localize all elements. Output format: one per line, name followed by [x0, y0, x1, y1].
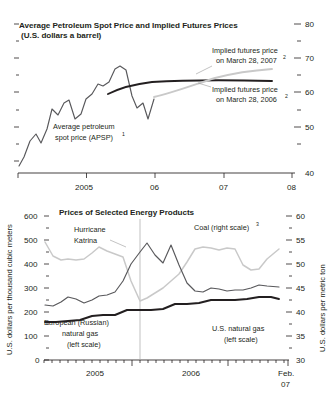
top-ytick-40: 40	[305, 169, 315, 178]
top-ytick-80: 80	[305, 20, 315, 29]
bottom-chart: Prices of Selected Energy Products U.S. …	[5, 208, 327, 389]
bottom-ytick-left-600: 600	[24, 212, 38, 221]
bottom-xtick-2005: 2005	[86, 369, 105, 378]
annotation-implied-futures-2006: Implied futures price on March 28, 2006 …	[198, 83, 288, 104]
annotation-european-natural-gas: European (Russian) natural gas (left sca…	[44, 318, 109, 349]
bottom-ytick-right-60: 60	[296, 212, 306, 221]
series-apsp	[19, 66, 154, 166]
bottom-ytick-right-30: 30	[296, 356, 306, 365]
bottom-ytick-right-40: 40	[296, 308, 306, 317]
top-chart: Average Petroleum Spot Price and Implied…	[14, 20, 315, 192]
top-chart-subtitle: (U.S. dollars a barrel)	[21, 31, 102, 40]
figure-svg: Average Petroleum Spot Price and Implied…	[0, 0, 331, 396]
top-ytick-60: 60	[305, 88, 315, 97]
bottom-ytick-left-400: 400	[24, 260, 38, 269]
anno-coal-footnote: 3	[256, 221, 259, 227]
bottom-ytick-left-0: 0	[35, 356, 40, 365]
bottom-ytick-left-300: 300	[24, 284, 38, 293]
bottom-xtick-07: 07	[281, 380, 291, 389]
anno-usgas-line2: (left scale)	[224, 335, 258, 344]
anno-futures07-line2: on March 28, 2007	[216, 56, 277, 65]
top-chart-title: Average Petroleum Spot Price and Implied…	[19, 21, 238, 30]
bottom-ytick-right-45: 45	[296, 284, 306, 293]
anno-futures06-line2: on March 28, 2006	[216, 95, 277, 104]
bottom-chart-title: Prices of Selected Energy Products	[59, 208, 195, 217]
bottom-x-major-ticks	[132, 360, 288, 366]
bottom-ytick-right-55: 55	[296, 236, 306, 245]
top-xtick-08: 08	[287, 183, 297, 192]
bottom-right-ticks	[286, 216, 292, 348]
top-right-ticks	[294, 24, 301, 144]
energy-prices-figure: Average Petroleum Spot Price and Implied…	[0, 0, 331, 396]
anno-european-line3: (left scale)	[67, 340, 101, 349]
top-left-minor-ticks	[14, 24, 19, 161]
bottom-xtick-feb: Feb.	[278, 369, 294, 378]
bottom-ytick-left-200: 200	[24, 308, 38, 317]
anno-futures07-line1: Implied futures price	[212, 46, 278, 55]
bottom-x-minor-ticks	[44, 360, 284, 363]
anno-european-line2: natural gas	[62, 329, 98, 338]
annotation-coal: Coal (right scale) 3	[194, 221, 259, 232]
bottom-right-axis-name: U.S. dollars per metric ton	[318, 264, 327, 352]
top-xtick-07: 07	[219, 183, 229, 192]
bottom-ytick-left-500: 500	[24, 236, 38, 245]
anno-futures07-footnote: 2	[283, 54, 286, 60]
annotation-apsp: Average petroleum spot price (APSP) 1	[53, 122, 125, 142]
anno-futures06-footnote: 2	[285, 93, 288, 99]
bottom-left-axis-name: U.S. dollars per thousand cubic meters	[5, 224, 14, 355]
bottom-xtick-2006: 2006	[182, 369, 201, 378]
bottom-left-ticks	[44, 216, 49, 360]
bottom-ytick-right-50: 50	[296, 260, 306, 269]
top-xtick-06: 06	[150, 183, 160, 192]
top-ytick-50: 50	[305, 123, 315, 132]
anno-apsp-line1: Average petroleum	[53, 122, 115, 131]
series-european-natural-gas	[45, 243, 279, 306]
anno-usgas-line1: U.S. natural gas	[212, 324, 265, 333]
top-xtick-2005: 2005	[75, 183, 94, 192]
bottom-ytick-right-35: 35	[296, 332, 306, 341]
top-x-ticks	[18, 173, 292, 178]
series-coal	[45, 242, 279, 301]
top-ytick-70: 70	[305, 54, 315, 63]
bottom-ytick-left-100: 100	[24, 332, 38, 341]
annotation-hurricane-katrina: Hurricane Katrina	[74, 225, 126, 247]
anno-apsp-line2: spot price (APSP)	[55, 133, 113, 142]
annotation-us-natural-gas: U.S. natural gas (left scale)	[212, 324, 265, 344]
anno-european-line1: European (Russian)	[44, 318, 109, 327]
anno-coal-label: Coal (right scale)	[194, 223, 249, 232]
anno-futures06-line1: Implied futures price	[212, 85, 278, 94]
anno-katrina-line1: Hurricane	[74, 225, 106, 234]
anno-katrina-line2: Katrina	[74, 236, 98, 245]
anno-apsp-footnote: 1	[122, 131, 125, 137]
